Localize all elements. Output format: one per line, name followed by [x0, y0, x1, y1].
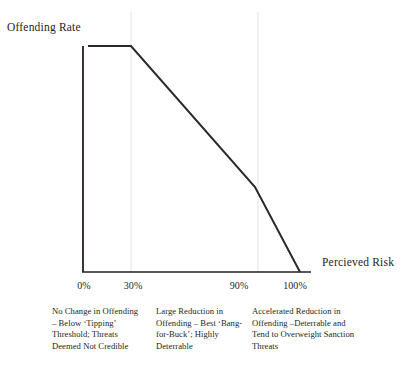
x-tick-label-group: 0% 30% 90% 100%	[0, 280, 409, 296]
plot-area	[0, 0, 409, 300]
data-series-line	[88, 46, 300, 272]
annotation-large-reduction: Large Reduction in Offending – Best ‘Ban…	[156, 306, 248, 352]
x-tick-label-100: 100%	[283, 280, 307, 291]
x-tick-label-30: 30%	[124, 280, 143, 291]
x-tick-label-90: 90%	[230, 280, 249, 291]
x-tick-label-0: 0%	[77, 280, 91, 291]
offending-rate-chart: Offending Rate Percieved Risk 0% 30% 90%…	[0, 0, 409, 388]
annotation-group: No Change in Offending – Below ‘Tipping’…	[0, 305, 409, 385]
annotation-accelerated-reduction: Accelerated Reduction in Offending –Dete…	[252, 306, 364, 352]
annotation-no-change: No Change in Offending – Below ‘Tipping’…	[52, 306, 144, 352]
